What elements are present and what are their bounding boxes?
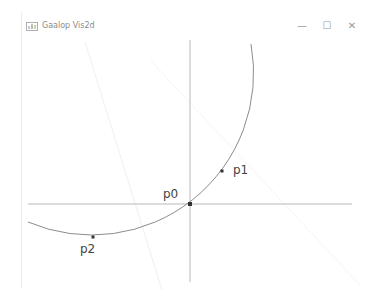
circle-arc — [28, 44, 254, 235]
point-p1[interactable] — [221, 170, 224, 173]
label-p2: p2 — [80, 242, 95, 256]
plot-canvas[interactable] — [0, 0, 373, 298]
label-p1: p1 — [233, 163, 248, 177]
faint-line — [150, 60, 360, 285]
point-p2[interactable] — [92, 236, 95, 239]
label-p0: p0 — [163, 187, 178, 201]
faint-line — [85, 42, 162, 290]
point-p0[interactable] — [188, 202, 192, 206]
